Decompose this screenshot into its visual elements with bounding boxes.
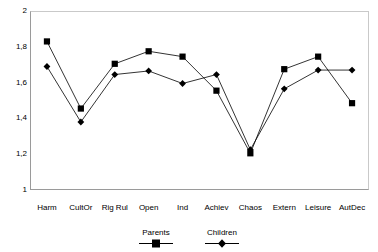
- data-point-parents-autdec: [349, 100, 355, 106]
- legend-label-parents: Parents: [142, 228, 170, 237]
- data-point-parents-ind: [179, 54, 185, 60]
- x-axis-category-labels: Harm CultOr Rig Rul Open Ind Achiev Chao…: [30, 203, 369, 215]
- data-point-children-achiev: [213, 71, 220, 78]
- plot-canvas: [30, 11, 369, 190]
- y-axis-tick-labels: 2 1,8 1,6 1,4 1,2 1: [0, 0, 27, 252]
- data-point-parents-leisure: [315, 54, 321, 60]
- legend-item-children: Children: [196, 228, 248, 248]
- x-axis-label-harm: Harm: [30, 203, 64, 215]
- data-point-children-open: [145, 68, 152, 75]
- line-chart: 2 1,8 1,6 1,4 1,2 1 Harm CultOr Rig Rul …: [0, 0, 378, 252]
- data-point-children-cultor: [77, 119, 84, 126]
- data-point-parents-achiev: [213, 88, 219, 94]
- series-parents: [44, 38, 355, 156]
- data-point-children-ind: [179, 80, 186, 87]
- x-axis-label-extern: Extern: [267, 203, 301, 215]
- data-point-children-extern: [281, 85, 288, 92]
- data-point-parents-harm: [44, 38, 50, 44]
- x-axis-label-achiev: Achiev: [200, 203, 234, 215]
- x-axis-label-cultor: CultOr: [64, 203, 98, 215]
- series-line-children: [47, 66, 352, 149]
- data-point-parents-extern: [281, 66, 287, 72]
- y-axis-tick-1-6: 1,6: [1, 79, 27, 87]
- y-axis-tick-1: 1: [1, 186, 27, 194]
- data-point-parents-open: [146, 48, 152, 54]
- series-line-parents: [47, 41, 352, 153]
- y-axis-tick-1-4: 1,4: [1, 114, 27, 122]
- data-point-children-autdec: [349, 67, 356, 74]
- square-marker-icon: [139, 239, 173, 248]
- legend-item-parents: Parents: [130, 228, 182, 248]
- y-axis-tick-1-2: 1,2: [1, 150, 27, 158]
- series-children: [44, 63, 356, 153]
- data-point-children-rig-rul: [111, 71, 118, 78]
- x-axis-label-rigrul: Rig Rul: [98, 203, 132, 215]
- x-axis-label-leisure: Leisure: [301, 203, 335, 215]
- data-point-parents-rig-rul: [112, 61, 118, 67]
- data-point-children-harm: [44, 63, 51, 70]
- data-point-parents-cultor: [78, 105, 84, 111]
- diamond-marker-icon: [205, 239, 239, 248]
- x-axis-label-autdec: AutDec: [335, 203, 369, 215]
- y-axis-tick-2: 2: [1, 7, 27, 15]
- legend-label-children: Children: [207, 228, 237, 237]
- x-axis-label-ind: Ind: [166, 203, 200, 215]
- chart-legend: Parents Children: [0, 228, 378, 248]
- data-point-children-leisure: [315, 67, 322, 74]
- y-axis-tick-1-8: 1,8: [1, 43, 27, 51]
- x-axis-label-open: Open: [132, 203, 166, 215]
- x-axis-label-chaos: Chaos: [233, 203, 267, 215]
